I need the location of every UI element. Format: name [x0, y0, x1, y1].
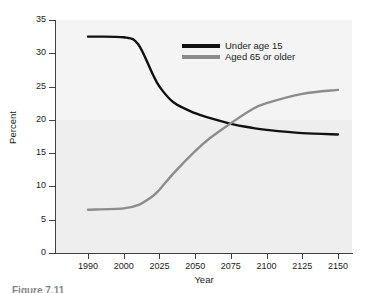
x-axis-tick: [267, 254, 268, 259]
x-axis-tick: [231, 254, 232, 259]
x-axis-tick-label: 2125: [282, 261, 322, 271]
y-axis-tick-label: 5: [6, 215, 46, 224]
y-axis-tick: [49, 153, 55, 154]
legend-swatch-aged-65-or-older: [182, 55, 220, 59]
figure-container: 05101520253035 1990200020252050207521002…: [0, 0, 365, 293]
legend-label-under-age-15: Under age 15: [225, 40, 283, 51]
x-axis-tick-label: 2050: [175, 261, 215, 271]
y-axis-tick: [49, 253, 55, 254]
x-axis-tick-label: 2000: [104, 261, 144, 271]
x-axis-tick-label: 2025: [139, 261, 179, 271]
y-axis-tick-label: 25: [6, 82, 46, 91]
x-axis-tick: [338, 254, 339, 259]
x-axis-line: [55, 253, 353, 254]
figure-caption: Figure 7.11: [12, 285, 64, 293]
x-axis-tick: [88, 254, 89, 259]
y-axis-tick: [49, 220, 55, 221]
y-axis-tick-label: 0: [6, 248, 46, 257]
legend-item-aged-65-or-older: Aged 65 or older: [182, 51, 295, 62]
y-axis-tick-label: 30: [6, 48, 46, 57]
x-axis-tick: [159, 254, 160, 259]
y-axis-title: Percent: [7, 98, 18, 158]
y-axis-tick: [49, 20, 55, 21]
x-axis-title: Year: [55, 274, 353, 285]
y-axis-tick: [49, 87, 55, 88]
legend-label-aged-65-or-older: Aged 65 or older: [225, 51, 295, 62]
legend-item-under-age-15: Under age 15: [182, 40, 295, 51]
y-axis-tick-label: 10: [6, 181, 46, 190]
x-axis-tick: [195, 254, 196, 259]
legend-swatch-under-age-15: [182, 44, 220, 48]
y-axis-tick: [49, 186, 55, 187]
y-axis-line: [55, 20, 56, 254]
y-axis-tick-label: 35: [6, 15, 46, 24]
x-axis-tick: [124, 254, 125, 259]
x-axis-tick: [302, 254, 303, 259]
x-axis-tick-label: 2150: [318, 261, 358, 271]
x-axis-tick-label: 1990: [68, 261, 108, 271]
y-axis-tick: [49, 120, 55, 121]
y-axis-tick: [49, 53, 55, 54]
series-line-aged-65-or-older: [88, 90, 338, 210]
x-axis-tick-label: 2100: [247, 261, 287, 271]
legend: Under age 15 Aged 65 or older: [182, 40, 295, 62]
x-axis-tick-label: 2075: [211, 261, 251, 271]
